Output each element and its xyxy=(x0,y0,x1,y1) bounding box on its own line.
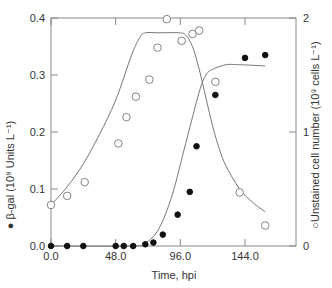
beta-gal-point xyxy=(121,243,127,249)
beta-gal-point xyxy=(194,143,200,149)
cell-number-point xyxy=(146,76,154,84)
beta-gal-point xyxy=(81,243,87,249)
plot-frame xyxy=(51,18,296,246)
cell-number-point xyxy=(81,178,89,186)
fit-curves xyxy=(51,32,265,246)
x-axis-label: Time, hpi xyxy=(152,269,197,281)
cell-number-point xyxy=(261,222,269,230)
beta-gal-point xyxy=(175,212,181,218)
cell-number-point xyxy=(236,189,244,197)
cell-number-point xyxy=(115,140,123,148)
y-left-tick-label: 0.1 xyxy=(30,183,45,195)
y-right-tick-label: 0 xyxy=(303,240,309,252)
y-left-tick-label: 0.3 xyxy=(30,69,45,81)
beta-gal-point xyxy=(130,243,136,249)
data-points xyxy=(47,15,269,248)
beta-gal-point xyxy=(151,240,157,246)
beta-gal-point xyxy=(262,52,268,58)
y-left-tick-label: 0.2 xyxy=(30,126,45,138)
y-left-tick-label: 0.0 xyxy=(30,240,45,252)
cell-number-point xyxy=(132,93,140,101)
cell-number-point xyxy=(163,15,171,23)
cell-number-point xyxy=(123,113,131,121)
beta-gal-point xyxy=(242,55,248,61)
y-right-tick-label: 2 xyxy=(303,12,309,24)
x-tick-label: 0.0 xyxy=(43,250,58,262)
x-tick-label: 144.0 xyxy=(231,250,259,262)
cell-number-point xyxy=(154,44,162,52)
beta-gal-point xyxy=(113,243,119,249)
y-left-tick-label: 0.4 xyxy=(30,12,45,24)
cell-number-point xyxy=(63,192,71,200)
fit-curve-line xyxy=(51,64,265,246)
beta-gal-point xyxy=(213,92,219,98)
y-axis-left-label: ● β-gal (10⁸ Units L⁻¹) xyxy=(4,121,16,230)
beta-gal-point xyxy=(64,243,70,249)
chart: 0.048.096.0144.00.00.10.20.30.4012 Time,… xyxy=(0,0,332,288)
y-axis-right-label: ○Unstained cell number (10⁹ cells L⁻¹) xyxy=(309,41,321,228)
cell-number-point xyxy=(212,78,220,86)
beta-gal-point xyxy=(48,243,54,249)
x-tick-label: 48.0 xyxy=(105,250,126,262)
beta-gal-point xyxy=(143,241,149,247)
cell-number-point xyxy=(47,201,55,209)
beta-gal-point xyxy=(160,232,166,238)
cell-number-point xyxy=(195,27,203,35)
x-tick-label: 96.0 xyxy=(170,250,191,262)
beta-gal-point xyxy=(187,189,193,195)
cell-number-point xyxy=(178,37,186,45)
